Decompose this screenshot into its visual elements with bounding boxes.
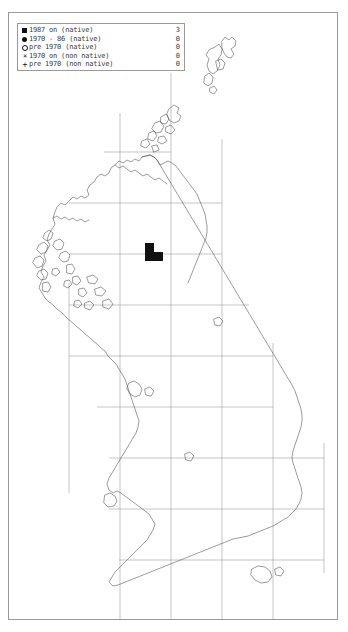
legend-item-label: pre 1970 (non native) bbox=[29, 60, 166, 69]
legend-item-count: 0 bbox=[166, 43, 181, 52]
legend-item-label: pre 1970 (native) bbox=[29, 43, 166, 52]
grid-layer bbox=[69, 73, 324, 619]
record-markers-layer bbox=[145, 243, 163, 261]
filled-square-icon bbox=[21, 26, 29, 34]
coastline-layer bbox=[33, 37, 302, 586]
legend-row: + pre 1970 (non native) 0 bbox=[21, 60, 181, 69]
plus-icon: + bbox=[21, 61, 29, 69]
filled-circle-icon bbox=[21, 35, 29, 43]
legend-item-label: 1987 on (native) bbox=[29, 26, 166, 35]
legend-box: 1987 on (native) 3 1970 - 86 (native) 0 … bbox=[17, 23, 185, 71]
legend-row: × 1970 on (non native) 0 bbox=[21, 52, 181, 61]
record-square bbox=[145, 252, 154, 261]
legend-item-count: 0 bbox=[166, 60, 181, 69]
legend-item-count: 3 bbox=[166, 26, 181, 35]
map-canvas bbox=[9, 13, 337, 619]
legend-item-count: 0 bbox=[166, 35, 181, 44]
legend-row: 1970 - 86 (native) 0 bbox=[21, 35, 181, 44]
legend-item-label: 1970 - 86 (native) bbox=[29, 35, 166, 44]
open-circle-icon bbox=[21, 43, 29, 51]
legend-row: 1987 on (native) 3 bbox=[21, 26, 181, 35]
record-square bbox=[154, 252, 163, 261]
record-square bbox=[145, 243, 154, 252]
legend-row: pre 1970 (native) 0 bbox=[21, 43, 181, 52]
legend-item-label: 1970 on (non native) bbox=[29, 52, 166, 61]
legend-item-count: 0 bbox=[166, 52, 181, 61]
distribution-map-root: 1987 on (native) 3 1970 - 86 (native) 0 … bbox=[0, 0, 348, 632]
cross-x-icon: × bbox=[21, 52, 29, 60]
